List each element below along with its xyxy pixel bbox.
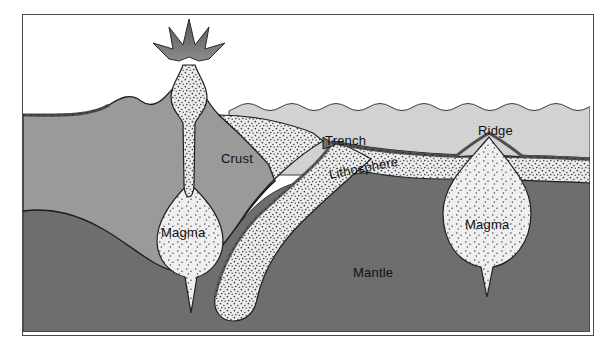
diagram-stage: Crust Trench Lithosphere Ridge Magma Mag… <box>0 0 614 350</box>
label-magma-left: Magma <box>161 225 206 240</box>
label-trench: Trench <box>325 133 366 148</box>
tectonics-cross-section: Crust Trench Lithosphere Ridge Magma Mag… <box>23 15 590 332</box>
label-crust: Crust <box>221 151 253 166</box>
label-magma-right: Magma <box>465 217 510 232</box>
label-mantle: Mantle <box>353 265 393 280</box>
diagram-frame: Crust Trench Lithosphere Ridge Magma Mag… <box>22 14 594 336</box>
label-ridge: Ridge <box>478 123 513 138</box>
